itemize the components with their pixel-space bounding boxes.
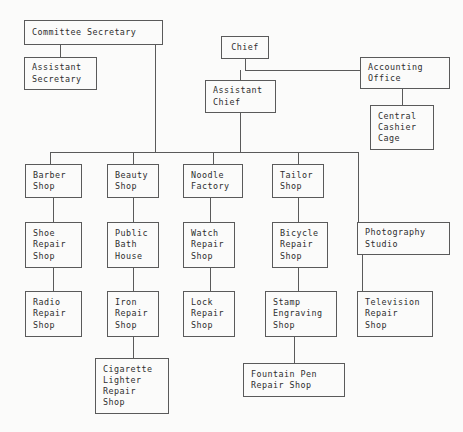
node-label-line: Stamp [273,297,332,308]
node-cigarette_lighter_repair_shop[interactable]: CigaretteLighterRepairShop [95,358,169,414]
node-label-line: Shop [115,181,154,192]
node-label-line: Shop [273,320,332,331]
node-label-line: Repair [115,308,154,319]
node-stamp_engraving_shop[interactable]: StampEngravingShop [265,291,337,337]
node-label-line: Lock [191,297,230,308]
node-label-line: Factory [191,181,238,192]
node-label-line: Repair [33,239,77,250]
node-label-line: Lighter [103,375,164,386]
node-label-line: Secretary [32,74,92,85]
node-label-line: Public [115,228,154,239]
node-label-line: Bath [115,239,154,250]
node-label-line: Shop [280,181,319,192]
node-label-line: Repair [191,239,230,250]
node-committee_secretary[interactable]: Committee Secretary [24,20,163,45]
node-label-line: Repair [103,386,164,397]
node-label-line: Shop [115,320,154,331]
node-label-line: Bicycle [280,228,323,239]
node-label-line: Barber [33,170,77,181]
node-photography_studio[interactable]: PhotographyStudio [357,222,450,255]
node-radio_repair_shop[interactable]: RadioRepairShop [25,291,82,337]
node-label-line: Radio [33,297,77,308]
node-label-line: Television [365,297,428,308]
node-label-line: Central [378,111,429,122]
node-label-line: Fountain Pen [251,369,340,380]
node-noodle_factory[interactable]: NoodleFactory [183,164,243,198]
node-label-line: Shop [103,397,164,408]
node-central_cashier_cage[interactable]: CentralCashierCage [370,105,434,150]
node-label-line: Repair Shop [251,380,340,391]
node-label-line: Tailor [280,170,319,181]
node-label-line: Accounting [368,62,445,73]
node-label-line: Iron [115,297,154,308]
node-watch_repair_shop[interactable]: WatchRepairShop [183,222,235,268]
node-label-line: Noodle [191,170,238,181]
node-label-line: Engraving [273,308,332,319]
node-assistant_chief[interactable]: AssistantChief [205,80,276,113]
node-label-line: Committee Secretary [32,27,158,38]
node-label-line: Chief [213,97,271,108]
node-iron_repair_shop[interactable]: IronRepairShop [107,291,159,337]
node-bicycle_repair_shop[interactable]: BicycleRepairShop [272,222,328,268]
node-label-line: Studio [365,239,445,250]
node-label-line: Shop [280,251,323,262]
node-label-line: Beauty [115,170,154,181]
node-label-line: Chief [231,42,258,53]
node-label-line: Repair [365,308,428,319]
node-label-line: Repair [33,308,77,319]
node-public_bath_house[interactable]: PublicBathHouse [107,222,159,268]
node-accounting_office[interactable]: AccountingOffice [360,57,450,89]
node-television_repair_shop[interactable]: TelevisionRepairShop [357,291,433,337]
node-label-line: Cage [378,133,429,144]
node-label-line: Shop [33,181,77,192]
node-tailor_shop[interactable]: TailorShop [272,164,324,198]
node-label-line: Cashier [378,122,429,133]
node-lock_repair_shop[interactable]: LockRepairShop [183,291,235,337]
node-label-line: Cigarette [103,364,164,375]
org-chart: Committee SecretaryAssistantSecretaryChi… [0,0,463,432]
node-label-line: Shop [191,251,230,262]
node-beauty_shop[interactable]: BeautyShop [107,164,159,198]
node-label-line: Repair [280,239,323,250]
node-assistant_secretary[interactable]: AssistantSecretary [24,57,97,90]
node-label-line: Shop [33,251,77,262]
node-fountain_pen_repair_shop[interactable]: Fountain PenRepair Shop [243,363,345,397]
node-label-line: House [115,251,154,262]
node-chief[interactable]: Chief [221,36,269,59]
node-label-line: Shop [365,320,428,331]
node-label-line: Watch [191,228,230,239]
node-label-line: Photography [365,227,445,238]
node-label-line: Shop [191,320,230,331]
node-label-line: Office [368,73,445,84]
node-label-line: Assistant [32,62,92,73]
node-shoe_repair_shop[interactable]: ShoeRepairShop [25,222,82,268]
node-label-line: Shoe [33,228,77,239]
node-barber_shop[interactable]: BarberShop [25,164,82,198]
node-label-line: Assistant [213,85,271,96]
node-label-line: Repair [191,308,230,319]
node-label-line: Shop [33,320,77,331]
